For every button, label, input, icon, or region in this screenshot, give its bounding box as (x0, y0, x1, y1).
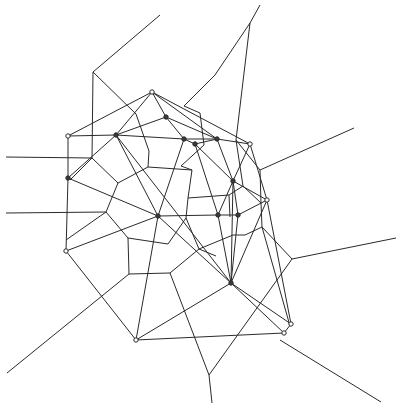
voronoi-delaunay-diagram (0, 0, 404, 411)
delaunay-edge (158, 139, 184, 216)
voronoi-edge (260, 128, 354, 170)
voronoi-edge (70, 158, 92, 180)
site-point-F (193, 142, 197, 146)
delaunay-edge (116, 135, 158, 216)
delaunay-edge (218, 181, 233, 215)
voronoi-edge (92, 158, 118, 183)
voronoi-edge (118, 167, 148, 183)
site-point-B (164, 115, 168, 119)
delaunay-edge (158, 215, 218, 216)
voronoi-edge (209, 375, 212, 403)
delaunay-edge (136, 283, 231, 340)
site-point-K (265, 198, 269, 202)
voronoi-edge (129, 273, 170, 274)
site-point-J (231, 179, 235, 183)
voronoi-edge (106, 183, 118, 212)
site-point-A (150, 90, 154, 94)
voronoi-edge (93, 72, 136, 114)
voronoi-edge (170, 273, 209, 375)
voronoi-edge (128, 238, 129, 274)
delaunay-edge (66, 178, 68, 251)
site-point-D (114, 133, 118, 137)
delaunay-edge (267, 200, 291, 324)
voronoi-edge (6, 212, 106, 213)
voronoi-edge (229, 195, 230, 217)
site-point-L (156, 214, 160, 218)
voronoi-edges (6, 5, 396, 403)
site-point-C (66, 134, 70, 138)
voronoi-edge (66, 212, 106, 240)
voronoi-edge (93, 15, 160, 72)
voronoi-edge (229, 186, 243, 195)
voronoi-edge (184, 75, 215, 106)
voronoi-edge (6, 157, 92, 158)
voronoi-edge (199, 235, 233, 249)
delaunay-edge (231, 283, 291, 324)
delaunay-edge (166, 117, 184, 139)
delaunay-edge (231, 200, 267, 283)
voronoi-edge (280, 340, 381, 402)
voronoi-edge (260, 170, 261, 203)
delaunay-edge (66, 251, 136, 340)
delaunay-edge (66, 216, 158, 251)
delaunay-edge (233, 181, 238, 215)
site-point-R (282, 331, 286, 335)
delaunay-edge (217, 139, 233, 181)
delaunay-edge (231, 283, 284, 333)
voronoi-edge (188, 195, 229, 198)
voronoi-edge (184, 106, 200, 113)
voronoi-edge (170, 249, 199, 273)
site-point-E (182, 137, 186, 141)
delaunay-edge (68, 135, 116, 136)
voronoi-edge (292, 238, 396, 259)
site-point-S (134, 338, 138, 342)
site-point-N (236, 213, 240, 217)
delaunay-edge (116, 135, 184, 139)
site-point-I (66, 176, 70, 180)
voronoi-edge (128, 238, 168, 244)
delaunay-edge (136, 216, 158, 340)
voronoi-edge (148, 151, 149, 167)
voronoi-edge (209, 259, 292, 375)
voronoi-edge (250, 5, 260, 23)
voronoi-edge (92, 72, 93, 158)
delaunay-edge (152, 92, 217, 139)
delaunay-edge (68, 178, 158, 216)
site-point-O (64, 249, 68, 253)
voronoi-edge (181, 145, 204, 166)
voronoi-edge (261, 203, 262, 227)
delaunay-edge (238, 200, 267, 215)
site-point-Q (289, 322, 293, 326)
delaunay-edge (68, 92, 152, 136)
delaunay-edge (195, 139, 217, 144)
delaunay-edge (116, 135, 231, 283)
diagram-canvas (0, 0, 404, 411)
voronoi-edge (188, 170, 192, 198)
site-point-H (248, 142, 252, 146)
site-point-P (229, 281, 233, 285)
voronoi-edge (7, 274, 129, 373)
voronoi-edge (136, 114, 149, 151)
site-point-M (216, 213, 220, 217)
site-point-G (215, 137, 219, 141)
delaunay-edge (136, 333, 284, 340)
voronoi-edge (186, 198, 188, 218)
